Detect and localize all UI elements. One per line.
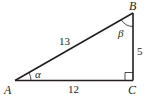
vertex-label-c: C (128, 83, 137, 97)
side-label-ab: 13 (59, 35, 71, 47)
right-angle-marker (125, 73, 133, 81)
right-triangle-diagram: A B C 13 5 12 α β (0, 0, 151, 97)
angle-arc-alpha (29, 73, 31, 81)
side-label-bc: 5 (137, 45, 143, 57)
angle-arc-beta (121, 20, 133, 27)
angle-label-beta: β (117, 27, 124, 39)
side-ab (15, 13, 133, 81)
angle-label-alpha: α (35, 68, 41, 80)
vertex-label-b: B (129, 0, 137, 13)
vertex-label-a: A (3, 83, 12, 97)
side-label-ac: 12 (68, 83, 79, 95)
